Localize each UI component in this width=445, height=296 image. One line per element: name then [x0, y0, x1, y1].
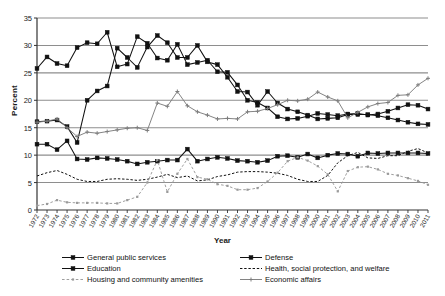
- data-point-marker: [165, 58, 169, 62]
- data-point-marker: [286, 154, 290, 158]
- x-tick-label: 2011: [418, 213, 431, 229]
- data-point-marker: [136, 196, 138, 198]
- data-point-marker: [95, 42, 99, 46]
- data-point-marker: [125, 62, 129, 66]
- data-point-marker: [347, 170, 349, 172]
- legend-item[interactable]: Defense: [240, 252, 392, 263]
- data-point-marker: [95, 156, 99, 160]
- legend-key-icon: [62, 264, 84, 273]
- data-point-marker: [426, 107, 430, 111]
- data-point-marker: [226, 70, 230, 74]
- data-point-marker: [135, 126, 139, 130]
- data-point-marker: [236, 159, 240, 163]
- data-point-marker: [135, 35, 139, 39]
- data-point-marker: [276, 115, 280, 119]
- data-point-marker: [156, 159, 158, 161]
- data-point-marker: [206, 178, 208, 180]
- series-path: [37, 157, 428, 205]
- data-point-marker: [246, 90, 250, 94]
- data-point-marker: [326, 95, 330, 99]
- data-point-marker: [115, 158, 119, 162]
- y-tick-label: 0: [28, 206, 32, 215]
- data-point-marker: [287, 160, 289, 162]
- data-point-marker: [249, 278, 253, 282]
- y-tick-label: 10: [24, 151, 32, 160]
- legend-item[interactable]: General public services: [62, 252, 240, 263]
- data-point-marker: [36, 205, 38, 207]
- data-point-marker: [256, 109, 260, 113]
- legend-key-icon: [62, 275, 84, 284]
- data-point-marker: [336, 99, 340, 103]
- data-point-marker: [196, 176, 198, 178]
- data-point-marker: [71, 256, 75, 260]
- data-point-marker: [397, 174, 399, 176]
- data-point-marker: [336, 152, 340, 156]
- data-point-marker: [337, 190, 339, 192]
- data-point-marker: [249, 256, 253, 260]
- series-line: [35, 76, 430, 138]
- legend-key-icon: [240, 275, 262, 284]
- data-point-marker: [246, 189, 248, 191]
- data-point-marker: [185, 147, 189, 151]
- data-point-marker: [416, 122, 420, 126]
- data-point-marker: [71, 267, 75, 271]
- data-point-marker: [256, 103, 260, 107]
- data-point-marker: [155, 56, 159, 60]
- data-point-marker: [236, 90, 240, 94]
- series-line: [35, 139, 430, 166]
- data-point-marker: [216, 183, 218, 185]
- data-point-marker: [56, 199, 58, 201]
- data-point-marker: [336, 116, 340, 120]
- data-point-marker: [206, 157, 210, 161]
- legend-label: Education: [87, 264, 121, 273]
- data-point-marker: [115, 128, 119, 132]
- legend-item[interactable]: Education: [62, 263, 240, 274]
- data-point-marker: [236, 83, 240, 87]
- data-point-marker: [266, 90, 270, 94]
- data-point-marker: [175, 56, 179, 60]
- data-point-marker: [185, 56, 189, 60]
- legend-key-icon: [240, 253, 262, 262]
- data-point-marker: [386, 151, 390, 155]
- data-point-marker: [206, 60, 210, 64]
- data-point-marker: [175, 158, 179, 162]
- data-point-marker: [326, 113, 330, 117]
- data-point-marker: [416, 103, 420, 107]
- data-point-marker: [105, 130, 109, 134]
- data-point-marker: [135, 65, 139, 69]
- legend-item[interactable]: Health, social protection, and welfare: [240, 263, 392, 274]
- data-point-marker: [45, 55, 49, 59]
- data-point-marker: [376, 114, 380, 118]
- data-point-marker: [277, 172, 279, 174]
- data-point-marker: [407, 177, 409, 179]
- data-point-marker: [376, 102, 380, 106]
- data-point-marker: [226, 75, 230, 79]
- data-point-marker: [85, 158, 89, 162]
- legend-item[interactable]: Housing and community amenities: [62, 274, 240, 285]
- data-point-marker: [276, 154, 280, 158]
- data-point-marker: [367, 166, 369, 168]
- data-point-marker: [105, 84, 109, 88]
- data-point-marker: [115, 65, 119, 69]
- data-point-marker: [105, 157, 109, 161]
- legend-label: General public services: [87, 253, 166, 262]
- legend-key-icon: [62, 253, 84, 262]
- data-point-marker: [366, 105, 370, 109]
- data-point-marker: [226, 157, 230, 161]
- data-point-marker: [306, 113, 310, 117]
- data-point-marker: [426, 123, 430, 127]
- data-point-marker: [286, 117, 290, 121]
- data-point-marker: [226, 185, 228, 187]
- data-point-marker: [307, 160, 309, 162]
- data-point-marker: [387, 173, 389, 175]
- data-point-marker: [95, 89, 99, 93]
- data-point-marker: [266, 159, 270, 163]
- data-point-marker: [165, 158, 169, 162]
- data-point-marker: [105, 30, 109, 34]
- legend-key-icon: [240, 264, 262, 273]
- data-point-marker: [376, 152, 380, 156]
- legend-item[interactable]: Economic affairs: [240, 274, 392, 285]
- data-point-marker: [55, 62, 59, 66]
- data-point-marker: [146, 181, 148, 183]
- data-point-marker: [316, 117, 320, 121]
